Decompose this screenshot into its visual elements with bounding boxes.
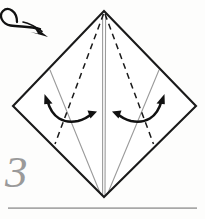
step-number: 3 — [5, 146, 45, 198]
turn-over-arrow — [1, 9, 48, 37]
center-vertical-crease-right-line — [105, 14, 106, 195]
origami-step-figure: 3 — [0, 0, 205, 219]
